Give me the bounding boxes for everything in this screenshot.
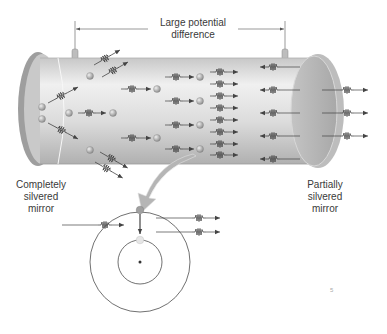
laser-diagram-svg [0,0,387,334]
laser-diagram: Large potential difference Completely si… [0,0,387,334]
partially-silvered-mirror [291,54,344,168]
potential-difference-label: Large potential difference [148,17,238,41]
potential-difference-label-line1: Large potential [148,17,238,29]
left-label-line1: Completely [2,179,80,191]
left-label-line2: silvered [2,191,80,203]
right-label-line3: mirror [295,203,355,215]
atom-energy-level-inset [62,206,220,312]
potential-difference-label-line2: difference [148,29,238,41]
completely-silvered-mirror-label: Completely silvered mirror [2,179,80,215]
right-label-line2: silvered [295,191,355,203]
partially-silvered-mirror-label: Partially silvered mirror [295,179,355,215]
page-mark: 5 [330,284,333,296]
right-label-line1: Partially [295,179,355,191]
left-label-line3: mirror [2,203,80,215]
